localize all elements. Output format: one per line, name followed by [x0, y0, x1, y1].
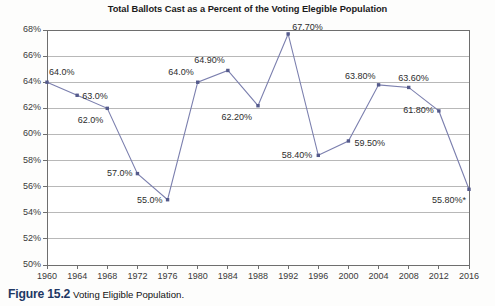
figure-container: Total Ballots Cast as a Percent of the V… [0, 0, 495, 306]
y-axis-tick-label: 66% [7, 50, 41, 60]
x-axis-tick-label: 2012 [422, 271, 456, 281]
data-point-label: 59.50% [354, 138, 385, 148]
data-point-label: 55.0% [137, 195, 163, 205]
x-axis-tick-label: 1972 [120, 271, 154, 281]
x-axis-tick-label: 2008 [392, 271, 426, 281]
data-point-label: 64.0% [168, 67, 194, 77]
data-point-label: 55.80%* [432, 195, 466, 205]
y-axis-tick-label: 68% [7, 24, 41, 34]
y-axis-tick-label: 52% [7, 233, 41, 243]
y-axis-tick-label: 64% [7, 76, 41, 86]
data-point-label: 57.0% [107, 168, 133, 178]
x-axis-tick-label: 1980 [181, 271, 215, 281]
y-axis-tick-label: 50% [7, 259, 41, 269]
data-point-label: 58.40% [282, 150, 313, 160]
data-point-label: 62.0% [78, 115, 104, 125]
x-axis-tick-label: 2000 [331, 271, 365, 281]
x-axis-tick-label: 1964 [60, 271, 94, 281]
data-point-label: 64.0% [49, 67, 75, 77]
x-axis-tick-label: 1968 [90, 271, 124, 281]
x-axis-tick-label: 1960 [30, 271, 64, 281]
data-point-label: 63.60% [398, 73, 429, 83]
data-point-label: 63.0% [82, 91, 108, 101]
data-point-label: 62.20% [221, 112, 252, 122]
x-axis-tick-label: 2004 [362, 271, 396, 281]
figure-number: Figure 15.2 [8, 287, 70, 301]
data-point-label: 63.80% [345, 71, 376, 81]
y-axis-tick-label: 60% [7, 128, 41, 138]
figure-caption: Figure 15.2 Voting Eligible Population. [8, 287, 184, 301]
data-point-label: 61.80% [403, 105, 434, 115]
data-point-label: 64.90% [194, 55, 225, 65]
x-axis-tick-label: 1996 [301, 271, 335, 281]
x-axis-tick-label: 1976 [151, 271, 185, 281]
y-axis-tick-label: 56% [7, 181, 41, 191]
x-axis-tick-label: 2016 [452, 271, 486, 281]
y-axis-tick-label: 62% [7, 102, 41, 112]
y-axis-tick-label: 54% [7, 207, 41, 217]
figure-caption-text: Voting Eligible Population. [73, 289, 184, 300]
x-axis-tick-label: 1984 [211, 271, 245, 281]
y-axis-tick-label: 58% [7, 155, 41, 165]
line-chart-plot [0, 0, 495, 306]
x-axis-tick-label: 1992 [271, 271, 305, 281]
data-point-label: 67.70% [292, 22, 323, 32]
x-axis-tick-label: 1988 [241, 271, 275, 281]
